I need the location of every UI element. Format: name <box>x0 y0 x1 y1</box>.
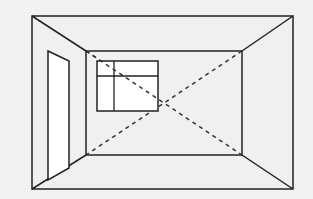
perspective-room-diagram <box>0 0 313 199</box>
door <box>48 51 69 180</box>
window <box>97 61 158 111</box>
